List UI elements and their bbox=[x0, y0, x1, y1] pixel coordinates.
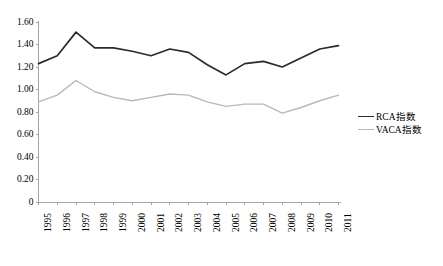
x-tick-label: 2002 bbox=[174, 213, 184, 232]
legend-line-swatch-vaca bbox=[358, 129, 374, 130]
x-tick-label: 1999 bbox=[118, 213, 128, 232]
x-tick-label: 1998 bbox=[99, 213, 109, 232]
legend-item-vaca: VACA指数 bbox=[358, 123, 442, 136]
y-tick-label: 0.40 bbox=[17, 152, 34, 162]
chart-legend: RCA指数 VACA指数 bbox=[358, 110, 442, 138]
x-tick-label: 2001 bbox=[156, 213, 166, 232]
y-tick-label: 1.20 bbox=[17, 62, 34, 72]
y-tick-label: 1.60 bbox=[17, 17, 34, 27]
series-line-vaca bbox=[39, 81, 339, 114]
x-tick-label: 2007 bbox=[268, 213, 278, 232]
x-tick-label: 1996 bbox=[62, 213, 72, 232]
x-tick-label: 2003 bbox=[193, 213, 203, 232]
y-tick-label: 0.60 bbox=[17, 129, 34, 139]
x-tick-label: 1995 bbox=[43, 213, 53, 232]
series-line-rca bbox=[39, 32, 339, 75]
y-tick-label: 0.20 bbox=[17, 174, 34, 184]
legend-item-rca: RCA指数 bbox=[358, 110, 442, 123]
x-tick-label: 2008 bbox=[287, 213, 297, 232]
y-tick-label: 0 bbox=[29, 197, 34, 207]
x-tick-label: 2011 bbox=[343, 213, 353, 232]
y-tick-label: 1.00 bbox=[17, 84, 34, 94]
x-tick-label: 2010 bbox=[324, 213, 334, 232]
y-tick-label: 0.80 bbox=[17, 107, 34, 117]
line-chart: 00.200.400.600.801.001.201.401.60 199519… bbox=[0, 0, 443, 266]
x-tick-label: 2000 bbox=[137, 213, 147, 232]
x-tick-label: 2006 bbox=[249, 213, 259, 232]
x-tick-label: 2009 bbox=[306, 213, 316, 232]
legend-label-rca: RCA指数 bbox=[376, 111, 416, 123]
x-tick-label: 2004 bbox=[212, 213, 222, 232]
x-tick-label: 1997 bbox=[81, 213, 91, 232]
legend-label-vaca: VACA指数 bbox=[376, 124, 422, 136]
legend-line-swatch-rca bbox=[358, 116, 374, 117]
x-tick-label: 2005 bbox=[231, 213, 241, 232]
y-tick-label: 1.40 bbox=[17, 39, 34, 49]
